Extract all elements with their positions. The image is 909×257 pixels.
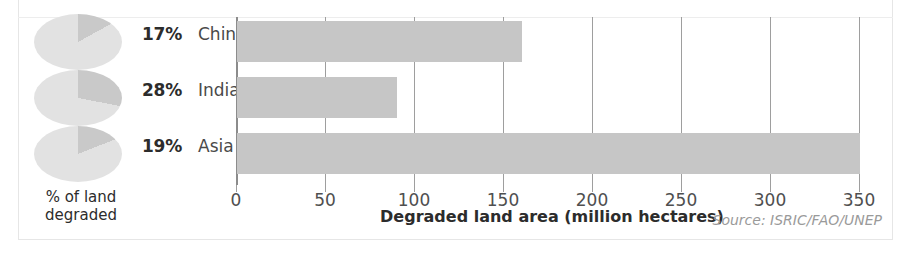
pie-inset-column <box>34 14 122 184</box>
pie-chart-china <box>34 14 122 70</box>
bar-china <box>237 21 522 62</box>
plot-area <box>236 17 868 185</box>
pie-slice-graphic <box>34 126 122 182</box>
source-credit: Source: ISRIC/FAO/UNEP <box>713 212 882 228</box>
percent-label-asia: 19% <box>128 136 182 156</box>
pie-legend-caption: % of land degraded <box>22 188 140 224</box>
pie-chart-asia <box>34 126 122 182</box>
chart-figure: 17%China28%India19%Asia % of land degrad… <box>0 0 909 257</box>
pie-slice-graphic <box>34 70 122 126</box>
pie-slice-graphic <box>34 14 122 70</box>
pie-chart-india <box>34 70 122 126</box>
percent-label-china: 17% <box>128 24 182 44</box>
percent-label-india: 28% <box>128 80 182 100</box>
bar-india <box>237 77 397 118</box>
bar-asia <box>237 133 860 174</box>
